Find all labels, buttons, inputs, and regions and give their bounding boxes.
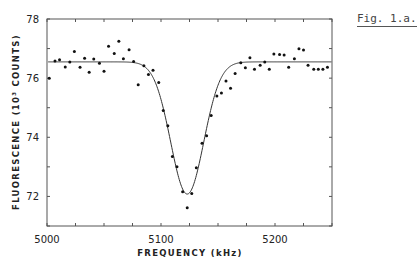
data-point [181, 190, 184, 193]
data-point [201, 142, 204, 145]
data-point [48, 77, 51, 80]
data-point [107, 45, 110, 48]
x-tick-label: 5000 [34, 234, 59, 245]
data-point [137, 83, 140, 86]
data-point [68, 60, 71, 63]
axis-tick-labels: 50005100520072747678 [26, 14, 287, 245]
data-point [312, 68, 315, 71]
data-point [268, 68, 271, 71]
data-point [297, 47, 300, 50]
data-point [83, 57, 86, 60]
data-point [117, 40, 120, 43]
data-point [92, 57, 95, 60]
x-tick-label: 5100 [148, 234, 173, 245]
data-point [321, 68, 324, 71]
fluorescence-chart: 50005100520072747678 FREQUENCY (kHz) FLU… [0, 0, 419, 271]
data-point [248, 56, 251, 59]
axis-ticks [47, 19, 332, 226]
data-point [272, 52, 275, 55]
data-point [73, 50, 76, 53]
data-point [122, 57, 125, 60]
data-point [147, 73, 150, 76]
data-points [48, 40, 329, 209]
y-tick-label: 76 [26, 73, 39, 84]
y-tick-label: 74 [26, 132, 39, 143]
plot-axes [47, 19, 332, 226]
data-point [162, 109, 165, 112]
data-point [278, 53, 281, 56]
y-axis-title: FLUORESCENCE (10³ COUNTS) [11, 34, 21, 210]
y-tick-label: 78 [26, 14, 39, 25]
data-point [244, 66, 247, 69]
data-point [293, 57, 296, 60]
data-point [186, 206, 189, 209]
data-point [253, 68, 256, 71]
fit-curve [48, 62, 331, 194]
data-point [287, 66, 290, 69]
data-point [53, 59, 56, 62]
data-point [239, 61, 242, 64]
figure-label: Fig. 1.a. [357, 12, 417, 27]
data-point [171, 155, 174, 158]
data-point [128, 48, 131, 51]
data-point [259, 64, 262, 67]
y-tick-label: 72 [26, 191, 39, 202]
data-point [175, 165, 178, 168]
data-point [215, 94, 218, 97]
data-point [113, 52, 116, 55]
data-point [79, 66, 82, 69]
data-point [317, 68, 320, 71]
data-point [283, 54, 286, 57]
x-axis-title: FREQUENCY (kHz) [137, 248, 243, 258]
data-point [88, 71, 91, 74]
x-tick-label: 5200 [262, 234, 287, 245]
data-point [103, 70, 106, 73]
data-point [263, 60, 266, 63]
data-point [307, 64, 310, 67]
data-point [210, 114, 213, 117]
data-point [205, 134, 208, 137]
data-point [142, 64, 145, 67]
data-point [229, 87, 232, 90]
data-point [64, 65, 67, 68]
data-point [58, 58, 61, 61]
data-point [166, 124, 169, 127]
data-point [132, 60, 135, 63]
data-point [98, 62, 101, 65]
data-point [190, 192, 193, 195]
data-point [220, 91, 223, 94]
data-point [195, 166, 198, 169]
data-point [152, 69, 155, 72]
data-point [157, 81, 160, 84]
data-point [224, 80, 227, 83]
data-point [302, 49, 305, 52]
data-point [326, 66, 329, 69]
data-point [234, 72, 237, 75]
